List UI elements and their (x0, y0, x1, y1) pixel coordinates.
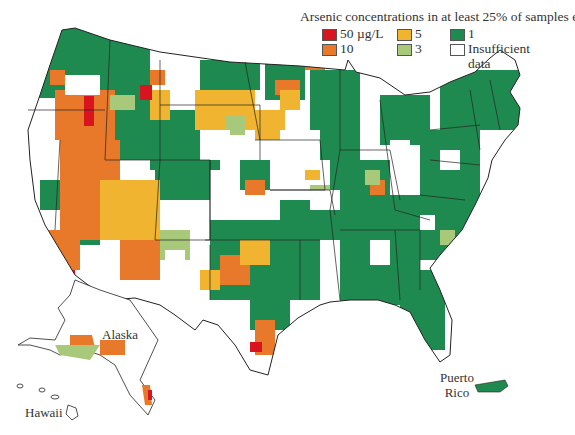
legend-item: 50 µg/L (322, 26, 383, 41)
legend-label: 3 (415, 41, 422, 56)
legend-item: 10 (322, 41, 354, 56)
legend-item: 5 (397, 26, 422, 41)
legend-label: Insufficientdata (468, 41, 530, 71)
legend-swatch (322, 29, 337, 41)
label-puerto-rico-line2: Rico (440, 385, 474, 400)
alaska-shape (18, 280, 158, 415)
legend-swatch (397, 29, 412, 41)
legend-swatch (397, 44, 412, 56)
legend-title: Arsenic concentrations in at least 25% o… (300, 9, 572, 25)
legend-item: Insufficientdata (450, 41, 530, 71)
label-hawaii: Hawaii (25, 405, 63, 420)
legend-swatch (450, 29, 465, 41)
label-puerto-rico-line1: Puerto (440, 370, 474, 385)
legend-item: 3 (397, 41, 422, 56)
legend-label: 10 (340, 41, 354, 56)
legend: Arsenic concentrations in at least 25% o… (302, 9, 572, 68)
legend-label: 50 µg/L (340, 26, 383, 41)
label-alaska: Alaska (102, 327, 138, 342)
legend-items: 50 µg/L10531Insufficientdata (302, 26, 572, 68)
legend-label: 5 (415, 26, 422, 41)
legend-item: 1 (450, 26, 475, 41)
legend-label: 1 (468, 26, 475, 41)
label-puerto-rico: Puerto Rico (440, 370, 474, 400)
legend-swatch (322, 44, 337, 56)
legend-swatch (450, 44, 465, 56)
puerto-rico-shape (475, 380, 508, 392)
